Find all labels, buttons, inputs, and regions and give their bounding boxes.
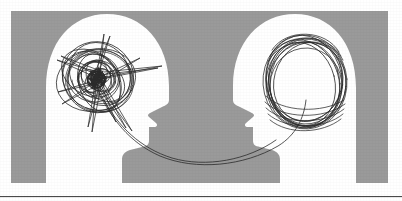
illustration-stage bbox=[0, 0, 402, 201]
two-heads-illustration bbox=[0, 0, 402, 201]
horizontal-rule bbox=[0, 196, 402, 197]
